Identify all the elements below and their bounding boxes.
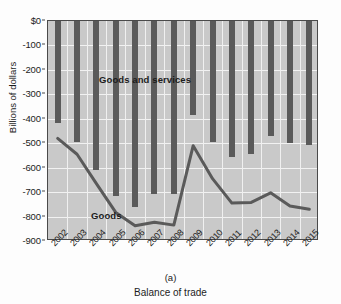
y-tick-label--200: -200 bbox=[22, 63, 41, 74]
y-tick-mark bbox=[42, 215, 45, 216]
y-tick-label--300: -300 bbox=[22, 88, 41, 99]
y-tick-mark bbox=[42, 142, 45, 143]
panel-letter: (a) bbox=[0, 272, 341, 283]
y-tick-label--500: -500 bbox=[22, 137, 41, 148]
y-tick-mark bbox=[42, 20, 45, 21]
y-tick-mark bbox=[42, 240, 45, 241]
y-tick-mark bbox=[42, 68, 45, 69]
y-tick-label--800: -800 bbox=[22, 210, 41, 221]
x-axis-ticks: 2002200320042005200620072008200920102011… bbox=[47, 241, 318, 275]
y-tick-label-0: $0 bbox=[31, 15, 41, 26]
y-tick-label--400: -400 bbox=[22, 112, 41, 123]
y-tick-mark bbox=[42, 166, 45, 167]
plot-area: Goods and services Goods bbox=[47, 20, 318, 240]
y-tick-label--600: -600 bbox=[22, 161, 41, 172]
line-series-goods bbox=[48, 21, 318, 240]
y-tick-label--100: -100 bbox=[22, 39, 41, 50]
y-tick-label--700: -700 bbox=[22, 186, 41, 197]
annotation-goods-and-services: Goods and services bbox=[99, 74, 191, 85]
annotation-goods: Goods bbox=[91, 210, 122, 221]
y-tick-mark bbox=[42, 44, 45, 45]
y-tick-mark bbox=[42, 117, 45, 118]
y-tick-mark bbox=[42, 93, 45, 94]
y-axis-title: Billions of dollars bbox=[7, 38, 18, 158]
y-tick-mark bbox=[42, 191, 45, 192]
y-tick-label--900: -900 bbox=[22, 235, 41, 246]
x-axis-title: Balance of trade bbox=[0, 287, 341, 298]
figure-balance-of-trade: $0-100-200-300-400-500-600-700-800-900 B… bbox=[0, 0, 341, 304]
